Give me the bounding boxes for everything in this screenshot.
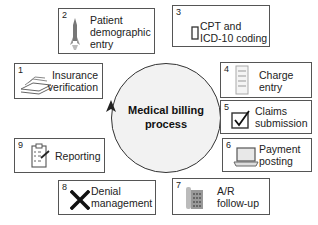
laptop-icon (233, 147, 259, 167)
step-number: 3 (176, 7, 181, 17)
step-6-payment-posting: 6 Payment posting (222, 138, 312, 172)
step-label: Charge entry (259, 69, 293, 93)
x-mark-icon (70, 190, 90, 210)
step-8-denial-management: 8 Denial management (58, 180, 156, 215)
center-title: Medical billing process (111, 103, 221, 131)
step-label: Denial management (91, 185, 152, 209)
center-title-line2: process (111, 117, 221, 131)
step-number: 9 (18, 140, 23, 150)
step-9-reporting: 9 Reporting (14, 138, 105, 173)
checkbox-icon (231, 110, 251, 130)
step-label: CPT and ICD-10 coding (200, 20, 267, 44)
step-number: 1 (18, 65, 23, 75)
step-label: Claims submission (255, 105, 308, 129)
phone-icon (185, 184, 205, 212)
document-icon (235, 65, 249, 95)
center-title-line1: Medical billing (111, 103, 221, 117)
step-7-ar-follow-up: 7 A/R follow-up (172, 178, 270, 215)
rocket-icon (69, 17, 81, 51)
step-4-charge-entry: 4 Charge entry (220, 62, 312, 98)
step-number: 6 (226, 140, 231, 150)
step-number: 7 (176, 180, 181, 190)
step-label: Insurance verification (48, 69, 98, 93)
step-number: 5 (224, 102, 229, 112)
step-label: Payment posting (259, 143, 300, 167)
cycle-arrow-icon (104, 100, 118, 116)
step-number: 4 (224, 64, 229, 74)
step-1-insurance-verification: 1 Insurance verification (14, 63, 103, 99)
step-label: A/R follow-up (217, 185, 259, 209)
step-label: Patient demographic entry (90, 14, 151, 50)
step-3-cpt-icd10-coding: 3 CPT and ICD-10 coding (172, 5, 270, 47)
step-number: 8 (62, 182, 67, 192)
step-number: 2 (62, 10, 67, 20)
clipboard-icon (30, 143, 50, 169)
step-2-patient-demographic-entry: 2 Patient demographic entry (58, 8, 155, 54)
rectangle-icon (191, 26, 199, 40)
step-5-claims-submission: 5 Claims submission (220, 100, 312, 134)
step-label: Reporting (55, 150, 101, 162)
